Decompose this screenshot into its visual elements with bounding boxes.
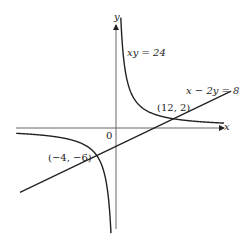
plot-area: [0, 0, 244, 244]
point-label-12-2: (12, 2): [157, 103, 190, 113]
chart: y x 0 xy = 24 x − 2y = 8 (12, 2) (−4, −6…: [0, 0, 244, 244]
line-label: x − 2y = 8: [186, 86, 240, 96]
point-label-neg4-neg6: (−4, −6): [48, 153, 92, 163]
curve-label: xy = 24: [127, 48, 166, 58]
line-x-2y-8: [20, 91, 231, 192]
origin-label: 0: [106, 131, 112, 141]
y-axis-label: y: [114, 12, 120, 22]
hyperbola-branch-negative: [16, 133, 111, 233]
x-axis-label: x: [224, 122, 230, 132]
